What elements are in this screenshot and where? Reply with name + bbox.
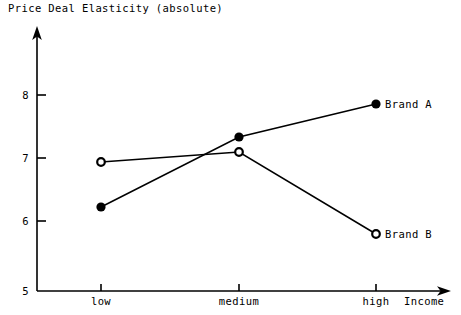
chart-container: Price Deal Elasticity (absolute) 8 7 6 5: [0, 0, 461, 315]
series-line-brand-b: [101, 152, 376, 234]
chart-plot-area: 8 7 6 5 low medium high Income Brand A B…: [0, 0, 461, 315]
data-point-brand-b-high: [372, 230, 380, 238]
data-point-brand-a-high: [371, 99, 380, 108]
series-label-brand-b: Brand B: [385, 228, 432, 240]
data-point-brand-b-medium: [235, 148, 243, 156]
x-tick-label-high: high: [363, 295, 390, 307]
y-axis-ticks: [37, 95, 46, 221]
series-label-brand-a: Brand A: [385, 98, 432, 110]
x-axis-ticks: [101, 284, 376, 291]
x-tick-label-medium: medium: [219, 295, 259, 307]
series-markers-brand-b: [97, 148, 380, 238]
y-tick-label-7: 7: [22, 152, 29, 164]
x-tick-label-low: low: [91, 295, 111, 307]
x-axis-title: Income: [404, 295, 444, 307]
data-point-brand-b-low: [97, 158, 105, 166]
data-point-brand-a-low: [96, 202, 105, 211]
y-tick-label-6: 6: [22, 215, 29, 227]
data-point-brand-a-medium: [234, 132, 243, 141]
y-tick-label-8: 8: [22, 89, 29, 101]
y-tick-label-5: 5: [22, 285, 29, 297]
